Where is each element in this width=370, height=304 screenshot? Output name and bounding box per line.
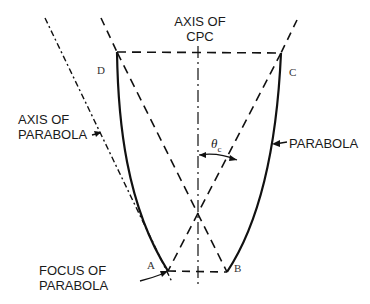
parabola-label: PARABOLA: [289, 136, 358, 151]
point-label-c: C: [289, 66, 296, 78]
axis-of-cpc-line2: CPC: [172, 29, 228, 44]
diagonal-c-a: [168, 53, 281, 271]
axis-of-parabola-line1: AXIS OF: [18, 112, 87, 127]
theta-subscript: c: [217, 144, 221, 154]
axis-of-cpc-label: AXIS OF CPC: [172, 14, 228, 44]
left-parabola-curve: [117, 52, 168, 271]
point-label-a: A: [147, 259, 155, 271]
focus-of-parabola-line1: FOCUS OF: [39, 263, 108, 278]
right-extension-line: [281, 20, 297, 53]
axis-of-parabola-label: AXIS OF PARABOLA: [18, 112, 87, 142]
axis-parabola-leader-arrow: [94, 131, 101, 137]
right-parabola-curve: [227, 53, 281, 272]
diagonal-d-b: [117, 52, 227, 272]
focus-leader-arrow: [160, 271, 168, 277]
aperture-line: [117, 52, 281, 53]
cpc-diagram: AXIS OF CPC AXIS OF PARABOLA PARABOLA FO…: [0, 0, 370, 304]
focus-of-parabola-label: FOCUS OF PARABOLA: [39, 263, 108, 293]
axis-of-parabola-line2: PARABOLA: [18, 127, 87, 142]
theta-arrowhead-left: [199, 152, 206, 158]
diagram-lines: [0, 0, 370, 304]
point-label-b: B: [234, 262, 241, 274]
point-label-d: D: [97, 64, 105, 76]
focus-of-parabola-line2: PARABOLA: [39, 278, 108, 293]
theta-c-label: θc: [211, 136, 221, 154]
left-extension-line: [101, 18, 117, 52]
axis-of-cpc-line1: AXIS OF: [172, 14, 228, 29]
theta-arrowhead-right: [229, 155, 237, 161]
